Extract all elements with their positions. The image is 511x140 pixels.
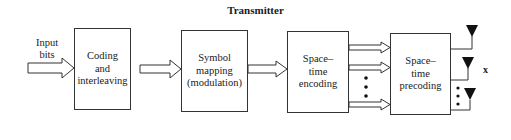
antennas xyxy=(462,25,478,100)
block-text: time xyxy=(299,66,338,79)
block-text: precoding xyxy=(400,80,442,93)
block-text: Space– xyxy=(299,53,338,66)
block-space-time-precoding: Space– time precoding xyxy=(390,33,451,115)
block-text: Space– xyxy=(400,55,442,68)
antenna-feed-1 xyxy=(451,36,472,49)
output-x-label: x xyxy=(483,64,488,76)
input-arrow xyxy=(28,58,74,78)
antenna-1-icon xyxy=(466,25,478,37)
block-space-time-encoding: Space– time encoding xyxy=(287,31,349,113)
block-text: encoding xyxy=(299,78,338,91)
block-text: time xyxy=(400,68,442,81)
block-text: mapping xyxy=(187,65,242,78)
arrow-mapping-to-encoding xyxy=(248,61,287,77)
antenna-feed-3 xyxy=(451,100,470,110)
arrow-coding-to-mapping xyxy=(140,60,181,78)
block-text: interleaving xyxy=(77,75,127,88)
arrow-stream-2 xyxy=(349,62,390,73)
antenna-3-icon xyxy=(464,88,476,100)
block-text: Coding xyxy=(77,50,127,63)
antenna-feed-2 xyxy=(451,68,468,80)
block-text: Symbol xyxy=(187,52,242,65)
ellipsis-dots-streams xyxy=(364,76,368,98)
antenna-2-icon xyxy=(462,57,474,69)
block-text: and xyxy=(77,63,127,76)
ellipsis-dots-antennas xyxy=(456,86,459,105)
arrow-stream-3 xyxy=(349,99,390,110)
block-text: (modulation) xyxy=(187,77,242,90)
block-coding-interleaving: Coding and interleaving xyxy=(74,28,131,110)
arrow-stream-1 xyxy=(349,42,390,53)
block-symbol-mapping: Symbol mapping (modulation) xyxy=(181,30,248,112)
